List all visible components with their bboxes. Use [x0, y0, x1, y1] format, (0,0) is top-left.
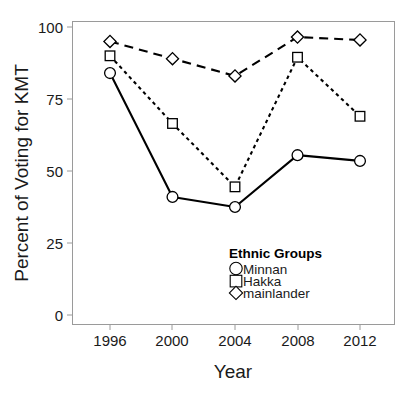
data-point-hakka-2008	[293, 52, 303, 62]
data-point-minnan-2004	[230, 202, 241, 213]
y-tick-label-0: 0	[55, 307, 63, 324]
y-tick-label-50: 50	[46, 163, 63, 180]
y-axis-title: Percent of Voting for KMT	[11, 64, 32, 282]
data-point-minnan-1996	[105, 68, 116, 79]
series-markers-group	[104, 31, 366, 212]
data-point-hakka-2012	[355, 111, 365, 121]
legend-entry-mainlander[interactable]: mainlander	[229, 286, 310, 301]
data-point-mainlander-2008	[291, 31, 303, 43]
chart-svg: 100 75 50 25 0 Percent of Voting for KMT…	[0, 0, 419, 393]
data-point-hakka-1996	[105, 51, 115, 61]
y-axis-ticks	[67, 27, 72, 315]
x-tick-label-2012: 2012	[343, 332, 376, 349]
diamond-marker-icon	[229, 286, 242, 299]
x-axis-title: Year	[214, 361, 253, 382]
legend-label-mainlander: mainlander	[243, 286, 310, 301]
data-point-mainlander-2004	[229, 70, 241, 82]
line-chart-figure: 100 75 50 25 0 Percent of Voting for KMT…	[0, 0, 419, 393]
data-point-minnan-2008	[292, 150, 303, 161]
x-tick-label-2004: 2004	[218, 332, 251, 349]
data-point-mainlander-2012	[354, 34, 366, 46]
data-point-minnan-2000	[167, 192, 178, 203]
data-point-minnan-2012	[355, 156, 366, 167]
x-tick-label-1996: 1996	[93, 332, 126, 349]
data-point-mainlander-2000	[166, 53, 178, 65]
x-tick-label-2008: 2008	[281, 332, 314, 349]
data-point-mainlander-1996	[104, 35, 116, 47]
x-tick-label-2000: 2000	[155, 332, 188, 349]
y-tick-label-100: 100	[38, 19, 63, 36]
square-marker-icon	[230, 275, 242, 287]
circle-marker-icon	[230, 262, 242, 274]
data-point-hakka-2004	[230, 182, 240, 192]
y-tick-label-25: 25	[46, 235, 63, 252]
x-axis-ticks	[110, 325, 360, 330]
y-tick-label-75: 75	[46, 91, 63, 108]
legend-title: Ethnic Groups	[229, 246, 322, 261]
legend: Ethnic Groups Minnan Hakka mainlander	[229, 246, 322, 301]
data-point-hakka-2000	[168, 119, 178, 129]
